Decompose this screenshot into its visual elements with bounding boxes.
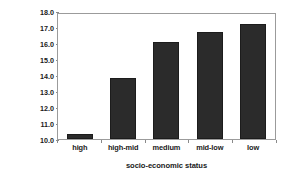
- bar-low[interactable]: [240, 24, 266, 139]
- bar-slot: [145, 14, 188, 139]
- y-axis-tick-label: 10.0: [30, 136, 54, 145]
- bars-container: [58, 14, 275, 139]
- y-axis-tick-label: 16.0: [30, 40, 54, 49]
- x-axis-tick-labels: highhigh-midmediummid-lowlow: [58, 143, 275, 155]
- bar-slot: [58, 14, 101, 139]
- y-axis-tick-label: 12.0: [30, 104, 54, 113]
- bar-high[interactable]: [67, 134, 93, 139]
- x-axis-tick-label-high: high: [58, 143, 101, 155]
- y-axis-tick-label: 11.0: [30, 120, 54, 129]
- x-axis-tick-label-high-mid: high-mid: [102, 143, 145, 155]
- y-axis-tick-label: 14.0: [30, 72, 54, 81]
- x-axis-tick-label-low: low: [231, 143, 274, 155]
- y-axis-tick-label: 15.0: [30, 56, 54, 65]
- y-axis-tick-labels: 18.017.016.015.014.013.012.011.010.0: [30, 12, 54, 140]
- y-axis-tick-label: 17.0: [30, 24, 54, 33]
- x-axis-tick-label-mid-low: mid-low: [188, 143, 231, 155]
- x-axis-tick-label-medium: medium: [145, 143, 188, 155]
- x-axis-tick-mark: [276, 140, 277, 143]
- y-axis-tick-label: 13.0: [30, 88, 54, 97]
- bar-mid-low[interactable]: [197, 32, 223, 139]
- bar-slot: [231, 14, 274, 139]
- bar-medium[interactable]: [153, 42, 179, 139]
- y-axis-tick-label: 18.0: [30, 8, 54, 17]
- bar-chart-figure: age-adjusted incidence (per 100,000) 18.…: [0, 0, 285, 183]
- bar-slot: [102, 14, 145, 139]
- bar-slot: [188, 14, 231, 139]
- x-axis-title: socio-economic status: [57, 161, 276, 170]
- bar-high-mid[interactable]: [110, 78, 136, 139]
